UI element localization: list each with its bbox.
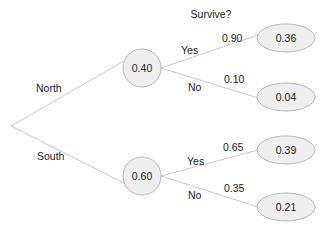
probability-label-north-yes: 0.90	[222, 32, 243, 44]
branch-label-south-yes: Yes	[187, 155, 204, 167]
probability-label-south-no: 0.35	[224, 182, 245, 194]
leaf-south-no-value: 0.21	[276, 201, 297, 213]
probability-label-south-yes: 0.65	[223, 141, 244, 153]
leaf-north-no-value: 0.04	[276, 91, 297, 103]
edge-north-to-yes	[161, 35, 258, 68]
edge-root-to-north	[11, 61, 124, 126]
edge-south-to-yes	[161, 150, 258, 176]
tree-canvas: Survive? North South Yes No Yes No 0.90 …	[0, 0, 322, 233]
node-north-value: 0.40	[132, 62, 153, 74]
survive-column-header: Survive?	[191, 8, 232, 20]
decision-tree-diagram: Survive? North South Yes No Yes No 0.90 …	[0, 0, 322, 233]
leaf-north-yes-value: 0.36	[276, 32, 297, 44]
node-south-value: 0.60	[132, 170, 153, 182]
probability-label-north-no: 0.10	[224, 73, 245, 85]
branch-label-north: North	[36, 82, 62, 94]
branch-label-south-no: No	[188, 189, 202, 201]
branch-label-north-no: No	[188, 81, 202, 93]
branch-label-south: South	[37, 150, 65, 162]
leaf-south-yes-value: 0.39	[276, 144, 297, 156]
edge-root-to-south	[11, 126, 124, 183]
branch-label-north-yes: Yes	[181, 44, 198, 56]
